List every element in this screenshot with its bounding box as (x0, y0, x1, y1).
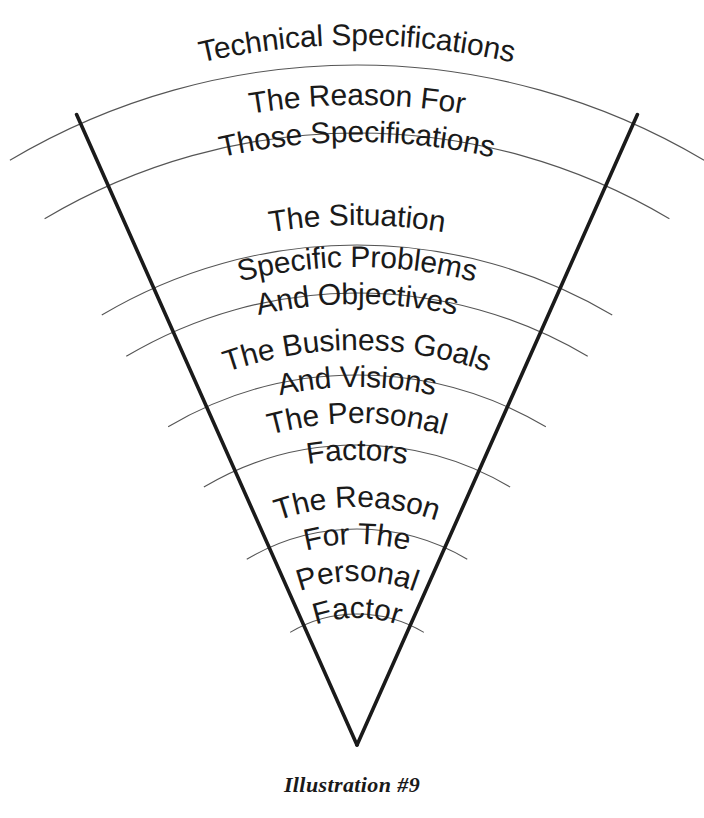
figure-caption: Illustration #9 (0, 772, 704, 798)
band-label-text: Personal (292, 554, 423, 597)
band-label-text: The Personal (263, 396, 451, 441)
band-divider-arc (204, 445, 510, 487)
illustration-figure: Technical SpecificationsThe Reason ForTh… (0, 0, 704, 818)
band-label-text: Technical Specifications (196, 18, 519, 68)
band-label-text: And Objectives (253, 277, 462, 321)
band-label-text: The Reason For (246, 78, 468, 120)
band-label-text: For The (300, 517, 414, 556)
band-label-text: Those Specifications (216, 115, 498, 163)
band-label-text: The Reason (270, 480, 445, 526)
band-label-text: And Visions (275, 360, 440, 401)
band-labels: Technical SpecificationsThe Reason ForTh… (196, 18, 519, 631)
band-label-text: The Situation (266, 198, 448, 238)
cone-diagram: Technical SpecificationsThe Reason ForTh… (0, 0, 704, 818)
band-label-text: Factors (304, 433, 410, 470)
band-label-text: Factor (309, 591, 407, 631)
